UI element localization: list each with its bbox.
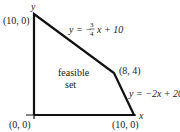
constraint-1-label: y = − 3 4 x + 10 — [68, 21, 123, 38]
svg-text:y = −: y = − — [68, 24, 92, 35]
region-label-line1: feasible — [58, 67, 90, 78]
svg-text:3: 3 — [90, 21, 94, 29]
vertex-label-corner: (8, 4) — [119, 65, 141, 77]
svg-text:4: 4 — [90, 30, 94, 38]
svg-text:x + 10: x + 10 — [96, 24, 123, 35]
region-label: feasible set — [58, 67, 92, 90]
feasible-set-diagram: y x (10, 0) (8, 4) (0, 0) (10, 0) feasib… — [0, 0, 180, 132]
vertex-label-right: (10, 0) — [112, 119, 139, 131]
constraint-2-label: y = −2x + 20 — [128, 88, 180, 99]
x-axis-label: x — [138, 110, 144, 121]
y-axis-label: y — [30, 1, 36, 12]
vertex-label-origin: (0, 0) — [9, 119, 31, 131]
region-label-line2: set — [65, 79, 76, 90]
vertex-label-top: (10, 0) — [3, 15, 30, 27]
